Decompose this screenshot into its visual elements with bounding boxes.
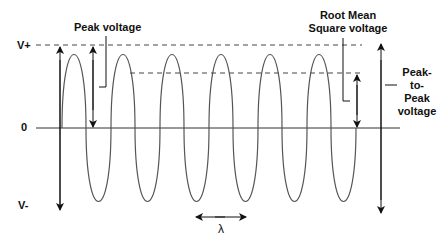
rms-label-line2: Square voltage bbox=[290, 22, 406, 35]
p2p-label-line1: Peak- bbox=[388, 66, 446, 79]
p2p-label-line4: voltage bbox=[388, 105, 446, 118]
p2p-label-line3: Peak bbox=[388, 92, 446, 105]
wavelength-label: λ bbox=[218, 222, 224, 236]
v-plus-label: V+ bbox=[17, 39, 31, 51]
sine-wave-diagram: V+ 0 V- Peak voltage Root Mean Square vo… bbox=[0, 0, 446, 243]
rms-label-line1: Root Mean bbox=[290, 9, 406, 22]
zero-label: 0 bbox=[21, 121, 27, 133]
rms-leader bbox=[343, 38, 350, 101]
rms-label: Root Mean Square voltage bbox=[290, 9, 406, 35]
peak-voltage-leader bbox=[99, 36, 106, 87]
peak-voltage-label: Peak voltage bbox=[74, 21, 141, 34]
v-minus-label: V- bbox=[18, 199, 28, 211]
peak-to-peak-label: Peak- to- Peak voltage bbox=[388, 66, 446, 118]
diagram-canvas bbox=[0, 0, 446, 243]
p2p-label-line2: to- bbox=[388, 79, 446, 92]
